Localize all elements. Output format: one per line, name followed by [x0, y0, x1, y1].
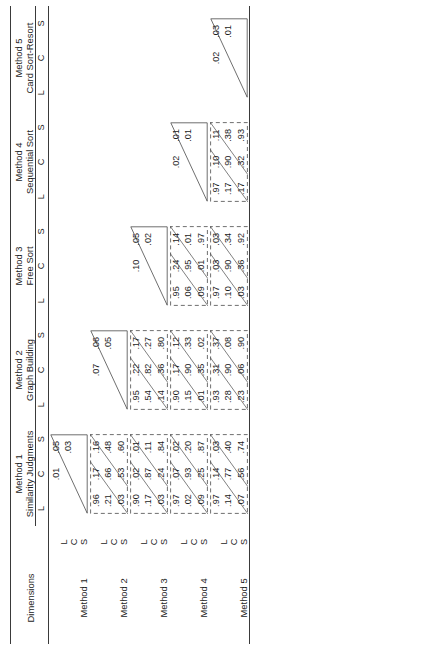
cell-value-r4c4-0-2: .01	[170, 122, 183, 149]
cell-value-r4c2-2-2: .02	[195, 330, 208, 357]
matrix-cell-r2c2: .07.06.05	[90, 330, 128, 410]
cell-value-r4c4-1-1	[183, 149, 196, 176]
cell-value-r5c2-1-1: .90	[223, 357, 236, 384]
cell-r5c4: .97.10.11.17.90.38.17.32.93	[209, 110, 250, 214]
lcs-group-1: L C S	[36, 422, 47, 526]
matrix-cell-r5c1: .97.14.03.14.77.40.07.56.74	[210, 434, 248, 514]
cell-r5c1: .97.14.03.14.77.40.07.56.74	[209, 422, 250, 526]
cell-value-r3c3-0-0	[130, 279, 143, 306]
cell-value-r5c2-2-2: .90	[235, 330, 248, 357]
cell-value-r5c1-0-1: .14	[210, 461, 223, 488]
lcs-group-2: L C S	[36, 318, 47, 422]
lcs-5-S: S	[36, 10, 46, 37]
cell-value-r3c1-0-2: .01	[130, 434, 143, 461]
cell-r2c4	[89, 110, 129, 214]
cell-value-r5c4-1-0: .17	[223, 175, 236, 202]
cell-r4c3: .95.24.14.06.95.01.09.01.97	[169, 214, 209, 318]
cell-value-r4c1-1-1: .93	[183, 461, 196, 488]
cell-value-r2c1-0-2: .16	[90, 434, 103, 461]
cell-value-r4c2-0-1: .17	[170, 357, 183, 384]
cell-r3c5	[129, 6, 169, 110]
cell-value-r2c2-0-1: .07	[90, 357, 103, 384]
cell-value-r3c1-0-0: .90	[130, 487, 143, 514]
cell-r5c2: .93.31.37.28.90.08.23.06.90	[209, 318, 250, 422]
cell-value-r5c1-2-2: .74	[235, 434, 248, 461]
cell-empty-spacer	[49, 30, 89, 110]
cell-value-r4c2-2-0: .01	[195, 383, 208, 410]
cell-value-r5c1-1-1: .77	[223, 461, 236, 488]
lcs-1-L: L	[36, 495, 46, 522]
cell-value-r4c4-1-0	[183, 175, 196, 202]
cell-value-r5c3-0-0: .97	[210, 279, 223, 306]
cell-value-r5c3-1-2: .34	[223, 226, 236, 253]
cell-value-r5c5-1-0	[223, 71, 236, 98]
cell-empty-spacer	[49, 134, 89, 214]
cell-value-r4c2-1-0: .15	[183, 383, 196, 410]
row-label-method-2: Method 2	[89, 552, 129, 644]
cell-value-r3c3-2-1	[155, 253, 168, 280]
cell-value-r5c3-2-0: .03	[235, 279, 248, 306]
cell-value-r5c4-2-1: .32	[235, 149, 248, 176]
lcs-5-L: L	[36, 79, 46, 106]
cell-value-r5c1-1-2: .40	[223, 434, 236, 461]
cell-value-r4c1-2-1: .25	[195, 461, 208, 488]
header-blank-code	[13, 526, 24, 552]
cell-value-r5c4-1-1: .90	[223, 149, 236, 176]
rotated-figure-wrapper: Method 1 Method 2 Method 3 Method 4 Meth…	[0, 0, 437, 650]
cell-r1c5	[49, 6, 90, 110]
cell-value-r5c3-2-1: .36	[235, 253, 248, 280]
cell-value-r4c1-1-2: .20	[183, 434, 196, 461]
matrix-table-area: Method 1 Method 2 Method 3 Method 4 Meth…	[0, 0, 437, 650]
cell-value-r2c2-0-2: .06	[90, 330, 103, 357]
cell-value-r3c2-1-1: .82	[143, 357, 156, 384]
cell-value-r1c1-0-2: .05	[50, 434, 63, 461]
cell-value-r3c3-0-2: .05	[130, 226, 143, 253]
lcs-3-L: L	[36, 287, 46, 314]
cell-value-r3c1-0-1: .02	[130, 461, 143, 488]
cell-r2c5	[89, 6, 129, 110]
table-row: Method 5 L C S .97.14.03.14.77.40.07.56.…	[209, 6, 250, 644]
cell-r3c2: .95.22.17.54.82.27.14.36.80	[129, 318, 169, 422]
cell-empty-spacer	[89, 134, 129, 214]
row-dim-1-C: C	[69, 528, 79, 550]
row-dim-codes-5: L C S	[209, 526, 250, 552]
cell-value-r5c5-1-2: .01	[223, 18, 236, 45]
col-group-method-3: Method 3	[13, 214, 24, 318]
table-row: Method 1 L C S .01.05.03	[49, 6, 90, 644]
cell-value-r5c5-0-2: .03	[210, 18, 223, 45]
cell-value-r4c4-2-1	[195, 149, 208, 176]
row-dim-1-S: S	[79, 528, 89, 550]
cell-value-r1c1-2-0	[75, 487, 88, 514]
cell-value-r5c2-2-1: .06	[235, 357, 248, 384]
cell-value-r5c2-0-0: .93	[210, 383, 223, 410]
row-dim-5-L: L	[219, 528, 229, 550]
matrix-cell-r4c1: .97.07.02.02.93.20.09.25.87	[170, 434, 208, 514]
cell-value-r5c4-2-2: .93	[235, 122, 248, 149]
cell-value-r3c2-1-2: .27	[143, 330, 156, 357]
cell-value-r5c3-0-1: .03	[210, 253, 223, 280]
cell-value-r3c2-1-0: .54	[143, 383, 156, 410]
cell-empty-spacer	[89, 238, 129, 318]
matrix-cell-r3c2: .95.22.17.54.82.27.14.36.80	[130, 330, 168, 410]
cell-value-r3c1-1-1: .87	[143, 461, 156, 488]
cell-empty-spacer	[169, 30, 209, 110]
row-label-method-5: Method 5	[209, 552, 250, 644]
cell-value-r2c2-2-1	[115, 357, 128, 384]
cell-value-r3c2-2-1: .36	[155, 357, 168, 384]
cell-value-r2c1-2-1: .53	[115, 461, 128, 488]
header-dimensions-label: Dimensions	[24, 552, 36, 644]
cell-value-r5c2-1-0: .28	[223, 383, 236, 410]
cell-value-r5c2-2-0: .23	[235, 383, 248, 410]
cell-value-r1c1-0-1: .01	[50, 461, 63, 488]
row-dim-codes-4: L C S	[169, 526, 209, 552]
cell-value-r3c3-1-0	[143, 279, 156, 306]
cell-value-r4c4-0-1: .02	[170, 149, 183, 176]
cell-empty-spacer	[89, 30, 129, 110]
cell-empty-spacer	[49, 238, 89, 318]
cell-value-r5c5-2-0	[235, 71, 248, 98]
cell-value-r3c2-2-0: .14	[155, 383, 168, 410]
cell-value-r4c4-0-0	[170, 175, 183, 202]
matrix-cell-r5c5: .02.03.01	[210, 18, 248, 98]
cell-r4c4: .02.01.01	[169, 110, 209, 214]
matrix-cell-r5c3: .97.03.03.10.90.34.03.36.92	[210, 226, 248, 306]
